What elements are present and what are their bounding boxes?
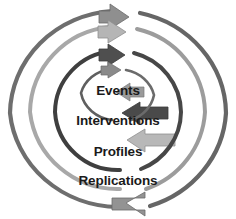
ring-label-interventions: Interventions: [0, 114, 236, 128]
ring-events-arrowhead-top: [101, 62, 121, 78]
ring-label-replications: Replications: [0, 174, 236, 188]
ring-interventions-arrowhead-top: [99, 44, 125, 66]
ring-replications-arrowhead-bottom: [112, 192, 145, 216]
ring-label-profiles: Profiles: [0, 145, 236, 159]
spiral-cycle-diagram: Events Interventions Profiles Replicatio…: [0, 0, 236, 219]
ring-profiles-arrowhead-top: [98, 20, 126, 43]
ring-label-events: Events: [0, 84, 236, 98]
